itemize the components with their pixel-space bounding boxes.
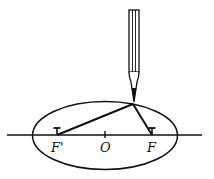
ellipse-construction-diagram: F' O F <box>0 0 214 179</box>
string-segment-left <box>57 104 133 135</box>
label-right-focus: F <box>146 140 157 155</box>
label-left-focus: F' <box>50 140 64 155</box>
pencil-icon <box>129 10 139 102</box>
label-center: O <box>100 140 111 155</box>
